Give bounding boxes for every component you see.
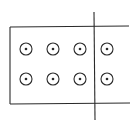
field-dot-icon [101, 43, 113, 55]
field-dot-icon [20, 73, 32, 85]
diagram-canvas [0, 0, 139, 132]
field-dot [106, 48, 109, 51]
field-dot-icon [20, 43, 32, 55]
region-top-edge [10, 26, 129, 27]
field-dot-icon [47, 73, 59, 85]
field-dot-icon [74, 43, 86, 55]
region-bottom-edge [10, 103, 130, 104]
field-dot [79, 48, 82, 51]
field-out-of-page-symbols [20, 43, 113, 85]
field-dot-icon [101, 73, 113, 85]
field-dot [106, 78, 109, 81]
field-region-boundary [10, 26, 130, 104]
field-dot [52, 78, 55, 81]
field-dot [79, 78, 82, 81]
field-dot [52, 48, 55, 51]
field-dot [25, 78, 28, 81]
magnetic-field-diagram [0, 0, 139, 132]
field-dot [25, 48, 28, 51]
field-dot-icon [74, 73, 86, 85]
field-dot-icon [47, 43, 59, 55]
